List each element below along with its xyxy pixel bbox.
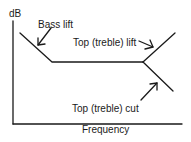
treble-cut-arrow-icon xyxy=(141,83,157,100)
treble-cut-label: Top (treble) cut xyxy=(72,103,139,114)
treble-lift-curve xyxy=(143,33,175,62)
treble-lift-label: Top (treble) lift xyxy=(73,37,136,48)
treble-lift-arrow-icon xyxy=(139,40,153,49)
y-axis-label: dB xyxy=(9,8,21,19)
bass-lift-arrow-icon xyxy=(38,28,51,45)
x-axis-label: Frequency xyxy=(82,124,129,135)
bass-lift-label: Bass lift xyxy=(38,19,73,30)
tone-control-diagram xyxy=(0,0,191,142)
treble-cut-curve xyxy=(143,62,173,91)
